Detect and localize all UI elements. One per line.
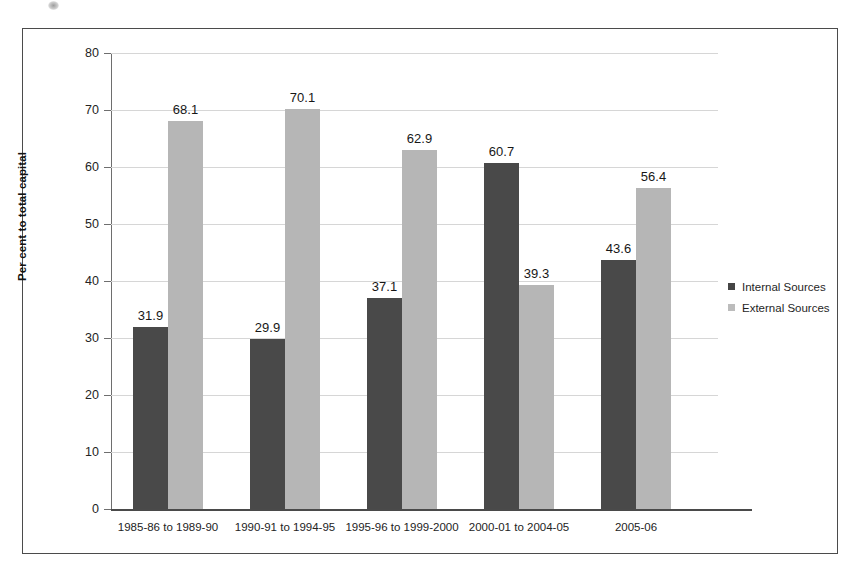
bar-external — [168, 121, 203, 509]
bar-external — [285, 109, 320, 509]
bar-value-label: 68.1 — [173, 102, 198, 117]
bar-value-label: 70.1 — [290, 90, 315, 105]
chart-figure-frame: Per cent to total capital 01020304050607… — [22, 28, 838, 554]
bar-value-label: 29.9 — [255, 320, 280, 335]
y-tick-label: 70 — [61, 103, 99, 117]
x-category-label: 1995-96 to 1999-2000 — [345, 521, 458, 533]
bar-value-label: 39.3 — [524, 266, 549, 281]
x-category-label: 2005-06 — [615, 521, 657, 533]
bar-external — [402, 150, 437, 509]
y-tick-label: 40 — [61, 274, 99, 288]
bar-internal — [484, 163, 519, 509]
bar-internal — [367, 298, 402, 509]
chart-plot-wrapper: Per cent to total capital 01020304050607… — [23, 29, 837, 553]
legend-label-internal: Internal Sources — [742, 281, 826, 293]
y-tick-label: 60 — [61, 160, 99, 174]
y-tick-mark — [104, 224, 111, 225]
bar-value-label: 56.4 — [641, 169, 666, 184]
y-tick-mark — [104, 167, 111, 168]
legend-label-external: External Sources — [742, 302, 830, 314]
y-tick-mark — [104, 281, 111, 282]
y-tick-label: 10 — [61, 445, 99, 459]
x-category-label: 1985-86 to 1989-90 — [118, 521, 218, 533]
bar-value-label: 60.7 — [489, 144, 514, 159]
gridline — [111, 110, 718, 111]
y-tick-mark — [104, 53, 111, 54]
x-category-label: 1990-91 to 1994-95 — [235, 521, 335, 533]
legend-item-internal[interactable]: Internal Sources — [728, 276, 836, 297]
bar-value-label: 37.1 — [372, 279, 397, 294]
bar-value-label: 31.9 — [138, 308, 163, 323]
y-tick-mark — [104, 452, 111, 453]
y-tick-label: 20 — [61, 388, 99, 402]
y-tick-label: 30 — [61, 331, 99, 345]
y-tick-label: 80 — [61, 46, 99, 60]
y-tick-mark — [104, 509, 111, 510]
x-axis-line — [111, 509, 752, 511]
scan-artifact-speck — [48, 1, 59, 10]
y-tick-mark — [104, 395, 111, 396]
bar-external — [636, 188, 671, 509]
y-tick-label: 50 — [61, 217, 99, 231]
y-tick-mark — [104, 110, 111, 111]
bar-external — [519, 285, 554, 509]
bar-internal — [250, 339, 285, 509]
x-category-label: 2000-01 to 2004-05 — [469, 521, 569, 533]
legend-swatch-internal-icon — [728, 283, 735, 290]
plot-area: 31.968.129.970.137.162.960.739.343.656.4 — [111, 53, 718, 509]
chart-legend: Internal Sources External Sources — [728, 276, 836, 318]
y-axis-title: Per cent to total capital — [16, 152, 28, 281]
legend-swatch-external-icon — [728, 304, 735, 311]
y-tick-mark — [104, 338, 111, 339]
y-tick-label: 0 — [61, 502, 99, 516]
bar-internal — [133, 327, 168, 509]
gridline — [111, 53, 718, 54]
bar-internal — [601, 260, 636, 509]
legend-item-external[interactable]: External Sources — [728, 297, 836, 318]
bar-value-label: 43.6 — [606, 241, 631, 256]
bar-value-label: 62.9 — [407, 131, 432, 146]
